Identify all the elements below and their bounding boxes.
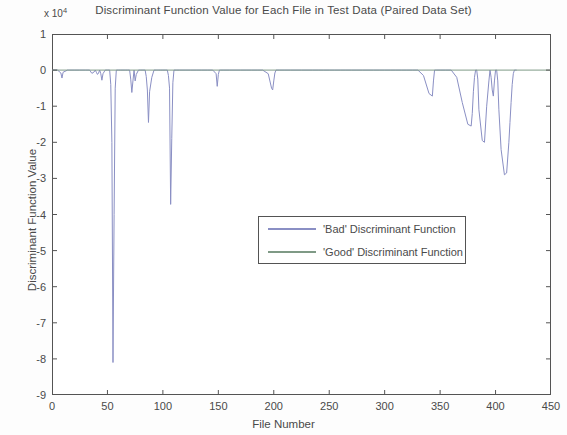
y-tick-label: 0 (0, 64, 46, 76)
x-tick-label: 250 (299, 400, 359, 412)
y-tick-label: -6 (0, 281, 46, 293)
y-tick-label: -7 (0, 317, 46, 329)
x-tick-label: 200 (244, 400, 304, 412)
y-tick-label: -1 (0, 100, 46, 112)
y-tick-label: -5 (0, 245, 46, 257)
legend-item-good: 'Good' Discriminant Function (259, 240, 465, 264)
plot-axes (52, 34, 551, 395)
y-tick-label: 1 (0, 28, 46, 40)
y-tick-label: -8 (0, 353, 46, 365)
matlab-figure: x 104 Discriminant Function Value for Ea… (0, 0, 567, 435)
y-tick-label: -3 (0, 172, 46, 184)
x-tick-label: 150 (188, 400, 248, 412)
y-axis-label: Discriminant Function Value (26, 85, 38, 355)
x-tick-label: 300 (355, 400, 415, 412)
y-tick-label: -4 (0, 209, 46, 221)
x-axis-label: File Number (0, 418, 567, 430)
x-tick-label: 50 (77, 400, 137, 412)
legend-label-good: 'Good' Discriminant Function (323, 246, 463, 258)
x-tick-label: 0 (22, 400, 82, 412)
x-tick-label: 100 (133, 400, 193, 412)
x-tick-label: 350 (410, 400, 470, 412)
chart-legend: 'Bad' Discriminant Function 'Good' Discr… (258, 216, 466, 264)
plot-canvas (52, 34, 551, 395)
legend-swatch-good (268, 251, 316, 253)
x-tick-label: 450 (521, 400, 567, 412)
legend-item-bad: 'Bad' Discriminant Function (259, 217, 465, 241)
legend-label-bad: 'Bad' Discriminant Function (323, 223, 456, 235)
x-tick-label: 400 (466, 400, 526, 412)
page-title: Discriminant Function Value for Each Fil… (0, 4, 567, 16)
y-tick-label: -2 (0, 136, 46, 148)
legend-swatch-bad (268, 228, 316, 230)
y-tick-label: -9 (0, 389, 46, 401)
